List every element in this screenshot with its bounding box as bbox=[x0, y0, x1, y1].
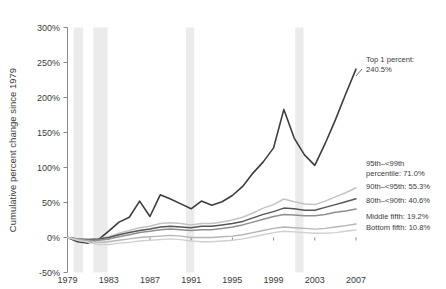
chart-container: 300%250%200%150%100%50%0%-50% Cumulative… bbox=[0, 0, 446, 289]
annotation-95th-99th-line2: percentile: 71.0% bbox=[366, 169, 425, 178]
series-line bbox=[68, 69, 357, 243]
series-group bbox=[68, 69, 357, 244]
annotation-top-1-percent-line1: Top 1 percent: bbox=[366, 55, 414, 64]
x-tick-label: 1983 bbox=[99, 275, 119, 285]
recession-bands bbox=[74, 28, 304, 273]
x-tick-label: 1999 bbox=[264, 275, 284, 285]
annotation-90th-95th: 90th–<95th: 55.3% bbox=[366, 182, 430, 191]
y-axis: 300%250%200%150%100%50%0%-50% bbox=[37, 23, 68, 278]
y-tick-label: 0% bbox=[47, 233, 60, 243]
recession-band bbox=[74, 28, 83, 273]
recession-band bbox=[93, 28, 107, 273]
x-tick-label: 1987 bbox=[140, 275, 160, 285]
recession-band bbox=[186, 28, 194, 273]
y-tick-label: 150% bbox=[37, 128, 60, 138]
x-tick-label: 1995 bbox=[222, 275, 242, 285]
y-tick-label: 50% bbox=[42, 198, 60, 208]
x-tick-label: 1979 bbox=[57, 275, 77, 285]
annotation-middle-fifth: Middle fifth: 19.2% bbox=[366, 212, 429, 221]
x-tick-label: 2007 bbox=[346, 275, 366, 285]
y-tick-label: 100% bbox=[37, 163, 60, 173]
y-tick-label: 250% bbox=[37, 58, 60, 68]
y-tick-label: 200% bbox=[37, 93, 60, 103]
annotation-95th-99th-line1: 95th–<99th bbox=[366, 159, 404, 168]
series-line bbox=[68, 188, 357, 240]
x-tick-label: 1991 bbox=[181, 275, 201, 285]
line-chart-svg: 300%250%200%150%100%50%0%-50% Cumulative… bbox=[0, 0, 446, 289]
annotation-top-1-percent-line2: 240.5% bbox=[366, 65, 392, 74]
y-axis-label: Cumulative percent change since 1979 bbox=[7, 68, 18, 232]
y-axis-title: Cumulative percent change since 1979 bbox=[7, 68, 18, 232]
y-tick-label: 300% bbox=[37, 23, 60, 33]
x-tick-label: 2003 bbox=[305, 275, 325, 285]
annotations-group: Top 1 percent: 240.5% 95th–<99th percent… bbox=[356, 55, 430, 232]
annotation-bottom-fifth: Bottom fifth: 10.8% bbox=[366, 223, 430, 232]
annotation-80th-90th: 80th–<90th: 40.6% bbox=[366, 196, 430, 205]
top1-leader-line bbox=[356, 69, 362, 76]
